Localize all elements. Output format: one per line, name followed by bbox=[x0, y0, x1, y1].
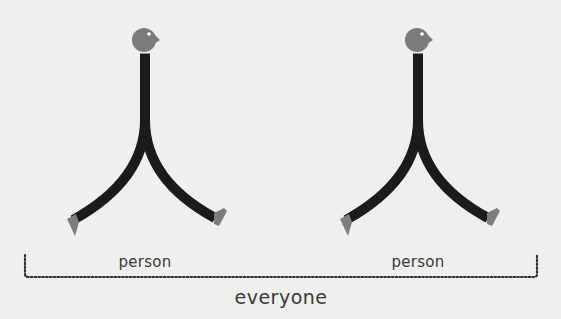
head-icon bbox=[405, 28, 429, 52]
stick-figure-person-2 bbox=[340, 28, 500, 236]
body-legs bbox=[73, 53, 145, 220]
stick-figure-person-1 bbox=[67, 28, 227, 236]
person-label-1: person bbox=[118, 253, 171, 271]
body-legs-right bbox=[145, 120, 215, 218]
diagram-canvas bbox=[0, 0, 561, 319]
group-bracket bbox=[25, 255, 537, 277]
body-legs-right bbox=[418, 120, 488, 218]
body-legs bbox=[346, 53, 418, 220]
eye-icon bbox=[420, 32, 424, 36]
head-icon bbox=[132, 28, 156, 52]
nose-icon bbox=[427, 34, 433, 44]
left-foot-icon bbox=[340, 214, 352, 236]
right-foot-icon bbox=[214, 208, 227, 226]
group-label: everyone bbox=[234, 286, 327, 308]
eye-icon bbox=[147, 32, 151, 36]
person-label-2: person bbox=[391, 253, 444, 271]
neck-gap bbox=[138, 52, 152, 54]
right-foot-icon bbox=[487, 208, 500, 226]
left-foot-icon bbox=[67, 214, 79, 236]
neck-gap bbox=[411, 52, 425, 54]
nose-icon bbox=[154, 34, 160, 44]
